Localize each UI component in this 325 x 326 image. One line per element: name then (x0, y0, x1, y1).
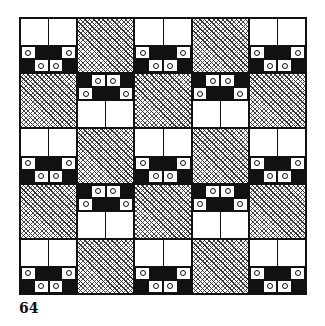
hatched-tile (192, 128, 249, 183)
black-cell (193, 185, 206, 198)
dot-cell (176, 46, 191, 59)
motif-strip (21, 170, 76, 183)
motif-strip (193, 87, 248, 100)
dot-cell (91, 185, 106, 198)
dot-cell (78, 87, 93, 100)
black-cell (150, 46, 176, 59)
circle-icon (180, 270, 186, 276)
black-cell (78, 185, 91, 198)
motif-strip (193, 74, 248, 87)
dot-cell (21, 157, 36, 170)
dot-cell (119, 87, 134, 100)
white-squares (135, 129, 190, 156)
circle-icon (180, 50, 186, 56)
black-cell (207, 87, 233, 100)
circle-icon (267, 63, 273, 69)
motif-strip (21, 59, 76, 72)
white-square (250, 240, 277, 266)
circle-icon (267, 283, 273, 289)
dot-cell (233, 87, 248, 100)
black-cell (235, 185, 248, 198)
circle-icon (210, 188, 216, 194)
black-cell (292, 170, 305, 183)
white-square (193, 212, 220, 238)
white-square (135, 19, 162, 45)
white-tile (134, 239, 191, 294)
dot-cell (205, 185, 220, 198)
white-tile (20, 18, 77, 73)
white-square (220, 212, 248, 238)
circle-icon (282, 173, 288, 179)
dot-cell (263, 280, 278, 293)
dot-cell (78, 198, 93, 211)
circle-icon (110, 188, 116, 194)
dot-cell (148, 280, 163, 293)
white-squares (250, 19, 305, 46)
hatched-tile (249, 184, 306, 239)
black-cell (292, 280, 305, 293)
dot-cell (21, 267, 36, 280)
circle-icon (95, 78, 101, 84)
circle-icon (254, 50, 260, 56)
white-tile (134, 18, 191, 73)
white-tile-inverted (77, 73, 134, 128)
black-cell (265, 267, 291, 280)
circle-icon (237, 91, 243, 97)
black-cell (135, 59, 148, 72)
circle-icon (153, 63, 159, 69)
motif-strip (250, 280, 305, 293)
black-cell (36, 267, 62, 280)
circle-icon (167, 283, 173, 289)
circle-icon (267, 173, 273, 179)
black-cell (150, 267, 176, 280)
black-cell (135, 170, 148, 183)
motif-strip (135, 59, 190, 72)
dot-cell (106, 185, 121, 198)
black-cell (36, 157, 62, 170)
dot-cell (34, 59, 49, 72)
dot-cell (176, 267, 191, 280)
dot-cell (106, 74, 121, 87)
white-squares (78, 100, 133, 127)
black-cell (36, 46, 62, 59)
circle-icon (53, 283, 59, 289)
white-square (48, 19, 76, 45)
black-cell (193, 74, 206, 87)
motif-strip (250, 157, 305, 170)
circle-icon (153, 283, 159, 289)
white-tile (249, 239, 306, 294)
dot-cell (49, 59, 64, 72)
circle-icon (225, 188, 231, 194)
dot-cell (176, 157, 191, 170)
motif-strip (135, 280, 190, 293)
circle-icon (66, 270, 72, 276)
black-cell (21, 59, 34, 72)
black-cell (93, 198, 119, 211)
dot-cell (163, 59, 178, 72)
motif-strip (135, 170, 190, 183)
motif-strip (193, 198, 248, 211)
black-cell (135, 280, 148, 293)
dot-cell (61, 157, 76, 170)
circle-icon (123, 201, 129, 207)
white-square (163, 129, 191, 155)
white-tile-inverted (77, 184, 134, 239)
white-square (105, 101, 133, 127)
dot-cell (34, 170, 49, 183)
motif-strip (193, 185, 248, 198)
circle-icon (210, 78, 216, 84)
black-cell (121, 74, 134, 87)
circle-icon (66, 50, 72, 56)
motif-strip (78, 198, 133, 211)
motif-strip (21, 157, 76, 170)
white-tile-inverted (192, 73, 249, 128)
white-square (21, 129, 48, 155)
white-squares (21, 19, 76, 46)
motif-strip (78, 74, 133, 87)
dot-cell (290, 157, 305, 170)
motif-strip (250, 46, 305, 59)
dot-cell (135, 157, 150, 170)
white-square (163, 19, 191, 45)
black-cell (265, 157, 291, 170)
motif-strip (78, 87, 133, 100)
